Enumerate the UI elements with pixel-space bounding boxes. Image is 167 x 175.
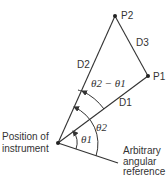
instrument-label-2: instrument — [2, 143, 49, 154]
outer-arc — [78, 90, 81, 91]
p1-label: P1 — [153, 71, 166, 82]
survey-diagram: P2 P1 D3 D2 D1 θ2 − θ1 θ2 θ1 Position of… — [0, 0, 167, 175]
reference-label-3: reference — [123, 166, 166, 175]
theta1-label: θ1 — [81, 133, 92, 145]
theta2-arc — [74, 107, 98, 156]
origin-point — [56, 141, 60, 145]
d3-label: D3 — [136, 37, 149, 48]
p1-point — [146, 74, 150, 78]
p2-label: P2 — [121, 10, 134, 21]
theta-diff-label: θ2 − θ1 — [91, 77, 126, 89]
theta2-label: θ2 — [96, 121, 107, 133]
theta-diff-arc — [82, 91, 104, 109]
p2-point — [113, 14, 117, 18]
reference-line — [58, 143, 118, 163]
theta1-arc — [73, 131, 77, 149]
reference-label-1: Arbitrary — [123, 145, 161, 156]
d1-label: D1 — [119, 97, 132, 108]
d2-label: D2 — [77, 59, 90, 70]
instrument-label-1: Position of — [2, 131, 49, 142]
